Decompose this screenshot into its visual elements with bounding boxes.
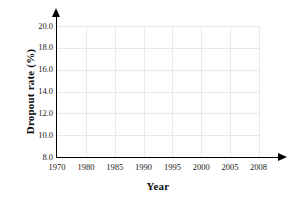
chart-container: Dropout rate (%) 8.0 10.0 12.0 14.0 16.0… <box>0 0 302 204</box>
x-tick-label: 2008 <box>239 162 279 172</box>
x-axis-tick-labels: 1970 1980 1985 1990 1995 2000 2005 2008 <box>0 0 302 204</box>
x-axis-title: Year <box>57 180 259 192</box>
